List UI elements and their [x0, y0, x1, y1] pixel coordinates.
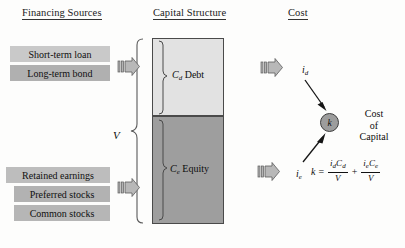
diagram-vector-layer: [0, 0, 405, 248]
block-arrow-capital-to-cost-debt: [261, 59, 283, 77]
line-arrow-equity-rate-to-k: [303, 133, 326, 162]
line-arrow-debt-rate-to-k: [305, 80, 327, 111]
diagram-canvas: Financing Sources Capital Structure Cost…: [0, 0, 405, 248]
equity-segment-brace: [159, 120, 167, 220]
block-arrow-capital-to-cost-equity: [258, 163, 280, 181]
block-arrow-equity-to-capital: [118, 179, 140, 197]
block-arrow-debt-to-capital: [118, 58, 140, 76]
debt-segment-brace: [159, 41, 167, 114]
